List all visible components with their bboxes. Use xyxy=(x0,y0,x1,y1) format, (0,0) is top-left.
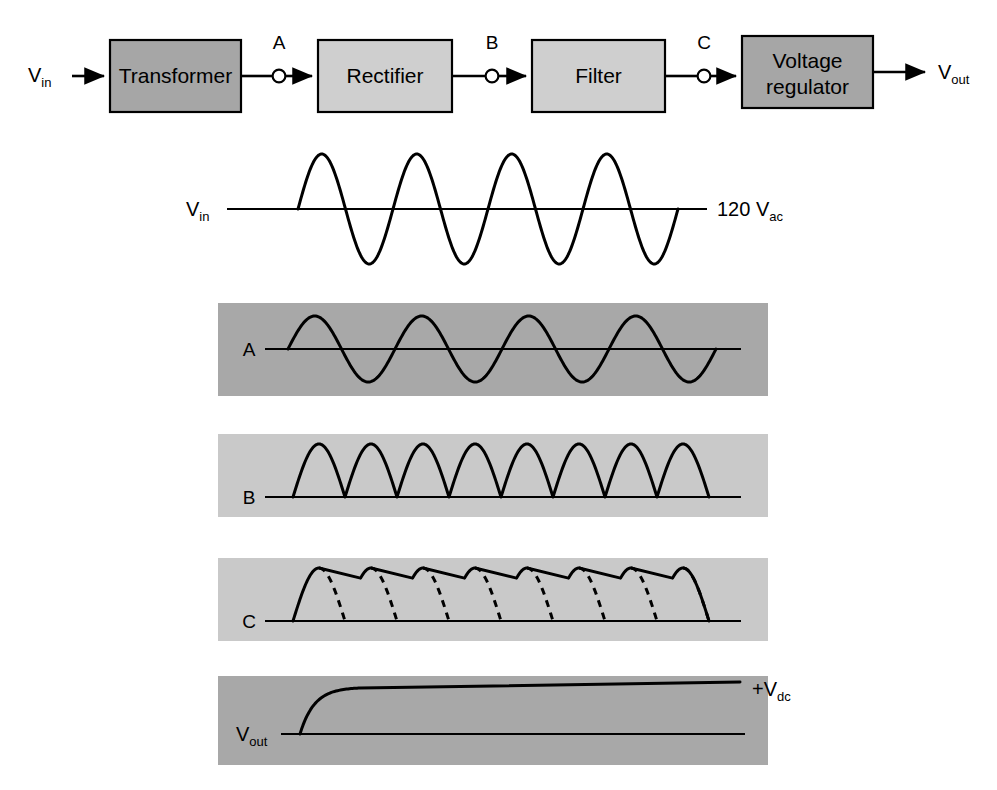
power-supply-figure: Vin Transformer A Rectifier B Filter xyxy=(0,0,997,790)
waveform-panel-c: C xyxy=(218,558,768,641)
figure-canvas: Vin Transformer A Rectifier B Filter xyxy=(0,0,997,790)
waveform-vin: Vin 120 Vac xyxy=(186,154,783,264)
block-diagram: Vin Transformer A Rectifier B Filter xyxy=(28,32,970,112)
waveform-vin-tag: Vin xyxy=(186,198,209,224)
panel-b-tag: B xyxy=(243,487,256,508)
waveform-vin-annotation-main: 120 V xyxy=(717,198,770,220)
vin-input-label-main: V xyxy=(28,64,42,86)
waveform-vin-tag-main: V xyxy=(186,198,200,220)
node-c-dot[interactable] xyxy=(698,70,711,83)
node-b-label: B xyxy=(486,32,499,53)
vout-output-label-main: V xyxy=(938,61,952,83)
block-transformer-label: Transformer xyxy=(119,64,233,87)
waveform-panel-vout: Vout +Vdc xyxy=(218,676,791,765)
waveform-vin-annotation-sub: ac xyxy=(769,209,783,224)
block-rectifier-label: Rectifier xyxy=(346,64,423,87)
panel-vout-tag-sub: out xyxy=(249,734,267,749)
block-filter-label: Filter xyxy=(575,64,622,87)
waveform-vin-annotation: 120 Vac xyxy=(717,198,783,224)
node-c-label: C xyxy=(697,32,711,53)
panel-vout-background xyxy=(218,676,768,765)
vin-input-label-sub: in xyxy=(41,75,51,90)
panel-vout-tag-main: V xyxy=(236,723,250,745)
block-voltage-regulator-label-line2: regulator xyxy=(766,75,849,98)
waveform-panel-b: B xyxy=(218,434,768,517)
node-a-dot[interactable] xyxy=(273,70,286,83)
vin-input-label: Vin xyxy=(28,64,51,90)
waveform-panel-a: A xyxy=(218,303,768,396)
panel-a-tag: A xyxy=(243,339,256,360)
node-a-label: A xyxy=(273,32,286,53)
panel-c-tag: C xyxy=(242,611,256,632)
panel-vout-annotation-main: +V xyxy=(752,678,778,700)
vout-output-label: Vout xyxy=(938,61,970,87)
node-b-dot[interactable] xyxy=(486,70,499,83)
block-voltage-regulator-label-line1: Voltage xyxy=(772,49,842,72)
waveform-vin-tag-sub: in xyxy=(199,209,209,224)
vout-output-label-sub: out xyxy=(951,72,969,87)
panel-vout-annotation-sub: dc xyxy=(777,689,791,704)
